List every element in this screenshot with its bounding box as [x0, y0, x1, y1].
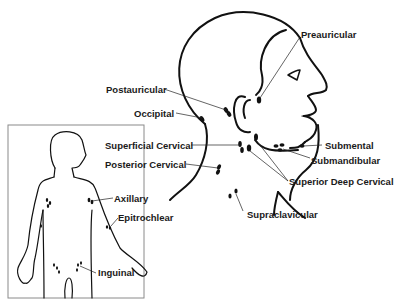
label-posterior-cervical: Posterior Cervical [105, 160, 186, 170]
head-profile-illustration [170, 12, 327, 218]
label-superficial-cervical: Superficial Cervical [105, 141, 193, 151]
submandibular-node-icon [274, 144, 279, 148]
label-epitrochlear: Epitrochlear [118, 213, 173, 223]
label-leader-lines [80, 37, 322, 273]
label-axillary: Axillary [114, 194, 148, 204]
epitrochlear-node-icon-left [40, 224, 42, 228]
label-submental: Submental [325, 141, 374, 151]
axillary-node-icon-right [88, 198, 91, 202]
lymph-node-diagram: Preauricular Postauricular Occipital Sup… [0, 0, 397, 301]
posterior-cervical-node-icon [216, 164, 222, 171]
inguinal-node-icon-right [77, 263, 79, 267]
label-occipital: Occipital [134, 109, 174, 119]
lymph-node-markers [40, 97, 305, 274]
label-superior-deep-cervical: Superior Deep Cervical [289, 177, 394, 187]
superficial-cervical-node-icon [238, 141, 242, 147]
label-inguinal: Inguinal [98, 268, 134, 278]
axillary-node-icon-left [46, 198, 48, 202]
label-preauricular: Preauricular [301, 30, 356, 40]
label-supraclavicular: Supraclavicular [247, 210, 318, 220]
epitrochlear-node-icon-right [106, 225, 108, 229]
label-postauricular: Postauricular [106, 85, 167, 95]
superior-deep-cervical-node-icon [254, 134, 258, 141]
supraclavicular-node-icon [228, 193, 231, 198]
label-submandibular: Submandibular [311, 156, 380, 166]
inguinal-node-icon-left [53, 263, 55, 267]
